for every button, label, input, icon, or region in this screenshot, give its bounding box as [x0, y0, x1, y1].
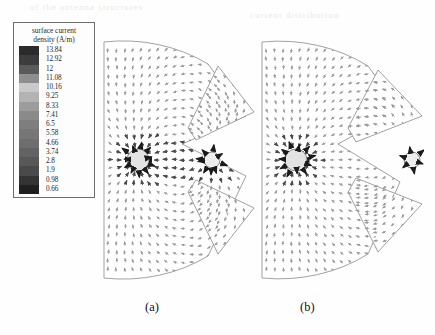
- current-vector-arrow: [348, 143, 352, 144]
- current-vector-arrow: [391, 168, 395, 170]
- current-vector-arrow: [216, 54, 220, 56]
- colorbar-tick-12: 2.8: [46, 157, 91, 166]
- current-vector-arrow: [237, 140, 240, 143]
- current-vector-arrow: [235, 246, 237, 250]
- current-vector-arrow: [211, 137, 212, 142]
- current-vector-arrow: [232, 67, 235, 70]
- current-vector-arrow: [220, 159, 226, 160]
- current-vector-arrow: [400, 71, 404, 74]
- current-vector-arrow: [382, 141, 386, 143]
- panel-b-svg: [252, 24, 424, 296]
- current-vector-arrow: [220, 138, 222, 143]
- colorbar-swatch-2: [19, 65, 39, 74]
- current-vector-arrow: [226, 135, 228, 139]
- current-vector-arrow: [173, 194, 177, 195]
- colorbar-swatch-0: [19, 46, 39, 55]
- current-vector-arrow: [228, 149, 233, 152]
- current-vector-arrow: [243, 182, 246, 185]
- figure-container: of the antenna structures current distri…: [0, 0, 435, 335]
- current-vector-arrow: [382, 73, 386, 74]
- current-vector-arrow: [244, 136, 247, 139]
- current-vector-arrow: [241, 242, 243, 246]
- current-vector-arrow: [215, 47, 219, 48]
- current-vector-arrow: [225, 62, 228, 65]
- colorbar-tick-2: 12: [46, 65, 91, 74]
- current-vector-arrow: [412, 121, 413, 125]
- current-vector-arrow: [189, 48, 193, 49]
- current-vector-arrow: [391, 64, 395, 65]
- current-vector-arrow: [235, 126, 237, 130]
- current-vector-arrow: [245, 178, 249, 180]
- colorbar-swatch-7: [19, 111, 39, 120]
- current-vector-arrow: [401, 88, 404, 91]
- current-vector-arrow: [292, 250, 293, 254]
- colorbar-tick-4: 10.16: [46, 83, 91, 92]
- current-vector-arrow: [409, 71, 412, 74]
- current-vector-arrow: [207, 264, 211, 265]
- current-vector-arrow: [357, 261, 361, 263]
- current-vector-arrow: [243, 118, 245, 122]
- current-vector-arrow: [292, 181, 293, 186]
- current-vector-arrow: [419, 150, 424, 154]
- current-vector-arrow: [125, 242, 126, 246]
- current-vector-arrow: [117, 91, 118, 95]
- current-vector-arrow: [241, 66, 244, 70]
- current-vector-arrow: [244, 264, 247, 268]
- current-vector-arrow: [392, 131, 395, 134]
- current-vector-arrow: [237, 150, 241, 152]
- current-vector-arrow: [216, 254, 220, 256]
- current-vector-arrow: [216, 264, 220, 266]
- current-vector-arrow: [241, 251, 244, 255]
- current-vector-arrow: [243, 53, 246, 57]
- current-vector-arrow: [410, 87, 412, 91]
- colorbar-title-line1: surface current: [32, 26, 76, 35]
- current-vector-arrow: [391, 72, 395, 74]
- current-vector-arrow: [391, 149, 395, 151]
- panel-b-plot: [252, 24, 424, 296]
- current-vector-arrow: [229, 139, 232, 142]
- current-vector-arrow: [244, 70, 246, 74]
- colorbar-tick-1: 12.92: [46, 55, 91, 64]
- current-vector-arrow: [226, 125, 227, 129]
- current-vector-arrow: [365, 262, 369, 263]
- current-vector-arrow: [391, 140, 394, 143]
- current-vector-arrow: [373, 151, 377, 152]
- current-vector-arrow: [291, 259, 292, 263]
- current-vector-arrow: [134, 134, 135, 139]
- colorbar-body: 13.8412.921211.0810.169.258.337.416.55.5…: [19, 46, 91, 194]
- current-vector-arrow: [225, 263, 229, 266]
- colorbar-tick-8: 6.5: [46, 120, 91, 129]
- current-vector-arrow: [223, 251, 227, 254]
- colorbar-swatch-14: [19, 176, 39, 185]
- current-vector-arrow: [349, 270, 353, 273]
- current-vector-arrow: [242, 75, 244, 79]
- current-vector-arrow: [246, 194, 249, 198]
- current-vector-arrow: [365, 270, 369, 272]
- current-vector-arrow: [236, 238, 238, 242]
- current-vector-arrow: [366, 48, 370, 50]
- current-vector-arrow: [391, 80, 395, 82]
- current-vector-arrow: [190, 262, 194, 263]
- current-vector-arrow: [207, 47, 211, 48]
- current-vector-arrow: [134, 109, 135, 113]
- current-vector-arrow: [409, 79, 412, 83]
- current-vector-arrow: [225, 246, 228, 249]
- current-vector-arrow: [235, 79, 237, 83]
- current-vector-arrow: [182, 270, 186, 272]
- current-vector-arrow: [222, 67, 226, 70]
- current-vector-arrow: [410, 240, 413, 244]
- current-vector-arrow: [235, 70, 237, 74]
- colorbar-swatch-11: [19, 148, 39, 157]
- current-vector-arrow: [297, 167, 298, 173]
- current-vector-arrow: [366, 57, 370, 58]
- current-vector-arrow: [225, 254, 228, 257]
- current-vector-arrow: [243, 127, 246, 131]
- current-vector-arrow: [180, 169, 185, 170]
- colorbar-tick-14: 0.98: [46, 176, 91, 185]
- current-vector-arrow: [243, 45, 246, 48]
- current-vector-arrow: [244, 254, 246, 258]
- current-vector-arrow: [211, 178, 212, 183]
- current-vector-arrow: [196, 159, 202, 160]
- current-vector-arrow: [245, 238, 246, 242]
- current-vector-arrow: [235, 109, 236, 113]
